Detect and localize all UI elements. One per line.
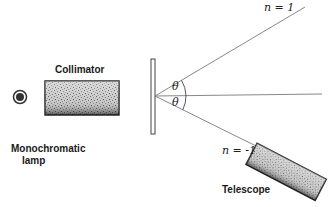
lamp-label-line1: Monochromatic xyxy=(11,143,85,154)
collimator xyxy=(45,81,119,115)
order-minus-one-label: n = -1 xyxy=(222,144,256,157)
diffraction-grating xyxy=(151,59,155,134)
lamp-label-line2: lamp xyxy=(22,155,45,166)
theta-lower-label: θ xyxy=(172,96,179,109)
theta-upper-label: θ xyxy=(172,80,179,93)
angle-arcs xyxy=(182,80,187,110)
order-plus-one-label: n = 1 xyxy=(264,1,294,14)
telescope-label: Telescope xyxy=(222,184,270,195)
diffraction-rays xyxy=(155,7,322,146)
collimator-label: Collimator xyxy=(55,64,104,75)
lamp-icon xyxy=(14,91,27,104)
